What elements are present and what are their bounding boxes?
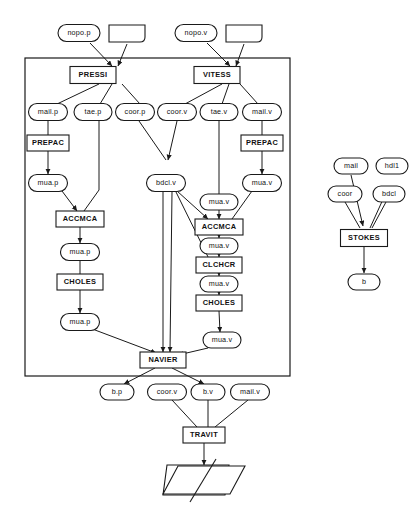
node-label: bdcl: [382, 189, 396, 198]
data-node-tae_p[interactable]: tae.p: [74, 104, 112, 121]
node-label: TRAVIT: [190, 430, 218, 439]
node-label: VITESS: [203, 70, 231, 79]
node-label: ACCMCA: [202, 222, 237, 231]
node-label: mua.v: [209, 197, 230, 206]
data-node-nopo_p[interactable]: nopo.p: [58, 25, 100, 42]
process-node-prepac_p[interactable]: PREPAC: [27, 135, 69, 151]
data-node-mail_v[interactable]: mail.v: [243, 104, 282, 121]
node-label: b.v: [203, 387, 213, 396]
data-node-coor_s[interactable]: coor: [328, 186, 362, 202]
blank-shape-pressure: [109, 25, 145, 42]
data-node-b_s[interactable]: b: [348, 274, 380, 290]
process-node-clchcr[interactable]: CLCHCR: [196, 257, 242, 273]
blank-shape-velocity: [226, 25, 262, 42]
data-node-mua_v2[interactable]: mua.v: [200, 194, 238, 210]
data-node-b_v[interactable]: b.v: [191, 384, 225, 400]
node-label: mua.p: [38, 178, 59, 187]
data-node-coor_v[interactable]: coor.v: [158, 104, 197, 121]
node-label: mail.v: [252, 107, 272, 116]
data-node-b_p[interactable]: b.p: [100, 384, 134, 400]
data-node-mail_v2[interactable]: mail.v: [231, 384, 270, 400]
data-node-mua_p3[interactable]: mua.p: [61, 314, 100, 331]
node-label: mail.v: [240, 387, 260, 396]
result-plane: [163, 459, 245, 502]
edges-pressi: [57, 84, 140, 104]
data-node-mail_p[interactable]: mail.p: [29, 104, 68, 121]
node-label: nopo.p: [67, 28, 90, 37]
data-node-mua_v3[interactable]: mua.v: [200, 238, 238, 254]
node-label: nopo.v: [185, 28, 208, 37]
node-label: mua.p: [70, 247, 91, 256]
edges-vitess: [185, 84, 258, 104]
node-label: mua.v: [212, 335, 233, 344]
edges-bdcl: [139, 121, 212, 352]
node-label: coor: [338, 189, 353, 198]
node-label: coor.p: [125, 107, 146, 116]
process-node-pressi[interactable]: PRESSI: [70, 67, 116, 84]
process-node-navier[interactable]: NAVIER: [140, 352, 186, 368]
node-label: PRESSI: [79, 70, 108, 79]
node-label: PREPAC: [32, 138, 64, 147]
node-label: coor.v: [157, 387, 178, 396]
process-node-stokes[interactable]: STOKES: [341, 230, 388, 247]
node-label: ACCMCA: [63, 214, 98, 223]
edges-top: [90, 43, 244, 66]
process-node-travit[interactable]: TRAVIT: [183, 427, 225, 443]
data-node-coor_p[interactable]: coor.p: [116, 104, 155, 121]
data-node-bdcl_v[interactable]: bdcl.v: [147, 175, 186, 192]
data-node-mua_p1[interactable]: mua.p: [29, 175, 68, 192]
node-label: b: [362, 277, 366, 286]
data-node-mua_v1[interactable]: mua.v: [243, 175, 282, 192]
node-label: STOKES: [348, 233, 380, 242]
data-node-coor_v2[interactable]: coor.v: [148, 384, 187, 400]
node-label: CLCHCR: [202, 260, 235, 269]
data-node-mua_v4[interactable]: mua.v: [200, 276, 238, 292]
process-node-prepac_v[interactable]: PREPAC: [241, 135, 283, 151]
node-label: b.p: [112, 387, 123, 396]
node-label: CHOLES: [203, 298, 236, 307]
data-node-hdl1_s[interactable]: hdl1: [376, 158, 408, 174]
node-label: mail: [344, 161, 358, 170]
node-label: bdcl.v: [156, 178, 176, 187]
data-node-mua_p2[interactable]: mua.p: [61, 244, 100, 261]
node-label: tae.v: [211, 107, 228, 116]
process-node-vitess[interactable]: VITESS: [194, 67, 240, 84]
node-label: mail.p: [38, 107, 58, 116]
node-label: mua.p: [70, 317, 91, 326]
data-node-bdcl_s[interactable]: bdcl: [373, 186, 405, 202]
node-label: mua.v: [209, 279, 230, 288]
node-label: PREPAC: [246, 138, 278, 147]
data-node-tae_v[interactable]: tae.v: [200, 104, 238, 121]
data-node-mua_v5[interactable]: mua.v: [203, 332, 241, 348]
node-label: mua.v: [209, 241, 230, 250]
process-node-choles_v[interactable]: CHOLES: [196, 295, 242, 311]
data-node-nopo_v[interactable]: nopo.v: [175, 25, 217, 42]
node-label: tae.p: [85, 107, 102, 116]
process-node-accmca_p[interactable]: ACCMCA: [56, 211, 104, 227]
node-label: hdl1: [385, 161, 399, 170]
node-label: CHOLES: [64, 277, 97, 286]
dataflow-diagram: PRESSIVITESSPREPACPREPACACCMCAACCMCACHOL…: [0, 0, 420, 520]
process-node-accmca_v[interactable]: ACCMCA: [195, 219, 243, 235]
diagram-canvas: PRESSIVITESSPREPACPREPACACCMCAACCMCACHOL…: [0, 0, 420, 520]
process-node-choles_p[interactable]: CHOLES: [57, 274, 103, 290]
data-node-mail_s[interactable]: mail: [334, 158, 368, 174]
node-label: NAVIER: [148, 355, 178, 364]
node-label: coor.v: [167, 107, 188, 116]
node-label: mua.v: [252, 178, 273, 187]
